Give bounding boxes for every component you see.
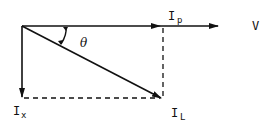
il-vector [22, 26, 161, 98]
v-label: V [252, 19, 259, 33]
theta-label: θ [80, 36, 88, 50]
ip-label: I [168, 9, 175, 23]
ix-label: I [13, 104, 20, 118]
il-label: I [171, 106, 178, 120]
ix-subscript: x [21, 110, 27, 120]
il-subscript: L [180, 112, 185, 122]
ip-subscript: p [177, 15, 182, 25]
phasor-diagram: θ I p V I L I x [0, 0, 272, 129]
